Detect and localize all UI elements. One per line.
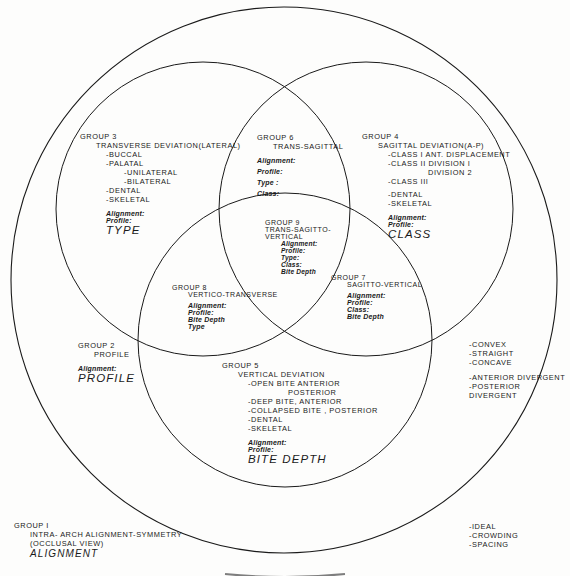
group-2-id: GROUP 2 bbox=[78, 341, 135, 350]
group-4-id: GROUP 4 bbox=[362, 132, 510, 141]
group-9-name-line2: VERTICAL bbox=[265, 233, 331, 240]
group-6-id: GROUP 6 bbox=[257, 133, 343, 142]
group-4-field-1: Profile: bbox=[362, 221, 510, 228]
group-4-field-0: Alignment: bbox=[362, 214, 510, 221]
diagram-page: GROUP 3 TRANSVERSE DEVIATION(LATERAL) -B… bbox=[0, 0, 570, 576]
venn-diagram-svg bbox=[0, 0, 570, 576]
group-5-id: GROUP 5 bbox=[222, 361, 378, 370]
group-7-field-3: Bite Depth bbox=[331, 313, 422, 320]
profile-note-1: -STRAIGHT bbox=[469, 349, 570, 358]
alignment-note-1: -CROWDING bbox=[469, 531, 518, 540]
group-4-item-1: -CLASS II DIVISION I bbox=[362, 159, 510, 168]
group-6-block: GROUP 6 TRANS-SAGITTAL Alignment: Profil… bbox=[257, 133, 343, 197]
group-9-field-3: Class: bbox=[265, 261, 331, 268]
group-1-block: GROUP I INTRA- ARCH ALIGNMENT-SYMMETRY (… bbox=[14, 521, 182, 559]
group-2-field-0: Alignment: bbox=[78, 365, 135, 372]
group-9-id: GROUP 9 bbox=[265, 219, 331, 226]
group-5-keyword: BITE DEPTH bbox=[222, 453, 378, 465]
group-3-item-5: -SKELETAL bbox=[80, 195, 241, 204]
group-3-item-1: -PALATAL bbox=[80, 159, 241, 168]
group-4-keyword: CLASS bbox=[362, 228, 510, 240]
group-5-item-5: -SKELETAL bbox=[222, 424, 378, 433]
group-4-item-2: DIVISION 2 bbox=[362, 168, 510, 177]
group-9-field-4: Bite Depth bbox=[265, 268, 331, 275]
group-7-name: SAGITTO-VERTICAL bbox=[331, 281, 422, 288]
group-9-field-2: Type: bbox=[265, 254, 331, 261]
group-7-field-2: Class: bbox=[331, 306, 422, 313]
group-3-keyword: TYPE bbox=[80, 224, 241, 236]
profile-note-3: -ANTERIOR DIVERGENT bbox=[469, 373, 570, 382]
group-5-name: VERTICAL DEVIATION bbox=[222, 370, 378, 379]
group-3-item-0: -BUCCAL bbox=[80, 150, 241, 159]
group-4-item-5: -SKELETAL bbox=[362, 199, 510, 208]
group-5-item-2: -DEEP BITE, ANTERIOR bbox=[222, 397, 378, 406]
group-2-name: PROFILE bbox=[78, 350, 135, 359]
group-8-name: VERTICO-TRANSVERSE bbox=[172, 291, 278, 298]
group-8-field-2: Bite Depth bbox=[172, 316, 278, 323]
group-7-block: GROUP 7 SAGITTO-VERTICAL Alignment: Prof… bbox=[331, 274, 422, 320]
alignment-note-0: -IDEAL bbox=[469, 522, 518, 531]
group-9-field-1: Profile: bbox=[265, 247, 331, 254]
group-5-item-1: POSTERIOR bbox=[222, 388, 378, 397]
group-9-field-0: Alignment: bbox=[265, 240, 331, 247]
group-3-id: GROUP 3 bbox=[80, 132, 241, 141]
group-6-field-3: Class: bbox=[257, 190, 343, 197]
group-1-name: INTRA- ARCH ALIGNMENT-SYMMETRY bbox=[14, 530, 182, 539]
profile-note-0: -CONVEX bbox=[469, 340, 570, 349]
alignment-note-2: -SPACING bbox=[469, 540, 518, 549]
group-2-keyword: PROFILE bbox=[78, 372, 135, 384]
outer-circle bbox=[11, 7, 557, 553]
group-8-block: GROUP 8 VERTICO-TRANSVERSE Alignment: Pr… bbox=[172, 284, 278, 330]
group-3-item-3: -BILATERAL bbox=[80, 177, 241, 186]
profile-note-4: -POSTERIOR DIVERGENT bbox=[469, 382, 570, 400]
group-3-name: TRANSVERSE DEVIATION(LATERAL) bbox=[80, 141, 241, 150]
group-4-item-0: -CLASS I ANT. DISPLACEMENT bbox=[362, 150, 510, 159]
group-7-id: GROUP 7 bbox=[331, 274, 422, 281]
group-2-block: GROUP 2 PROFILE Alignment: PROFILE bbox=[78, 341, 135, 384]
group-4-item-4: -DENTAL bbox=[362, 190, 510, 199]
group-5-field-0: Alignment: bbox=[222, 439, 378, 446]
group-3-block: GROUP 3 TRANSVERSE DEVIATION(LATERAL) -B… bbox=[80, 132, 241, 236]
group-6-field-2: Type : bbox=[257, 179, 343, 186]
group-7-field-1: Profile: bbox=[331, 299, 422, 306]
group-4-block: GROUP 4 SAGITTAL DEVIATION(A-P) -CLASS I… bbox=[362, 132, 510, 240]
group-8-id: GROUP 8 bbox=[172, 284, 278, 291]
group-9-block: GROUP 9 TRANS-SAGITTO- VERTICAL Alignmen… bbox=[265, 219, 331, 275]
right-alignment-notes: -IDEAL -CROWDING -SPACING bbox=[469, 522, 518, 549]
group-5-field-1: Profile: bbox=[222, 446, 378, 453]
group-4-item-3: -CLASS III bbox=[362, 177, 510, 186]
group-5-item-3: -COLLAPSED BITE , POSTERIOR bbox=[222, 406, 378, 415]
group-3-item-4: -DENTAL bbox=[80, 186, 241, 195]
group-8-field-0: Alignment: bbox=[172, 302, 278, 309]
group-7-field-0: Alignment: bbox=[331, 292, 422, 299]
profile-note-2: -CONCAVE bbox=[469, 358, 570, 367]
group-8-field-1: Profile: bbox=[172, 309, 278, 316]
group-5-item-4: -DENTAL bbox=[222, 415, 378, 424]
group-6-field-1: Profile: bbox=[257, 168, 343, 175]
group-5-block: GROUP 5 VERTICAL DEVIATION -OPEN BITE AN… bbox=[222, 361, 378, 465]
group-3-item-2: -UNILATERAL bbox=[80, 168, 241, 177]
group-9-name-line1: TRANS-SAGITTO- bbox=[265, 226, 331, 233]
group-4-name: SAGITTAL DEVIATION(A-P) bbox=[362, 141, 510, 150]
group-1-keyword: ALIGNMENT bbox=[14, 548, 182, 559]
group-1-id: GROUP I bbox=[14, 521, 182, 530]
group-8-field-3: Type bbox=[172, 323, 278, 330]
group-1-subtitle: (OCCLUSAL VIEW) bbox=[14, 539, 182, 548]
group-5-item-0: -OPEN BITE ANTERIOR bbox=[222, 379, 378, 388]
group-6-field-0: Alignment: bbox=[257, 157, 343, 164]
group-6-name: TRANS-SAGITTAL bbox=[257, 142, 343, 151]
right-profile-notes: -CONVEX -STRAIGHT -CONCAVE -ANTERIOR DIV… bbox=[469, 340, 570, 400]
group-3-field-1: Profile: bbox=[80, 217, 241, 224]
group-3-field-0: Alignment: bbox=[80, 210, 241, 217]
